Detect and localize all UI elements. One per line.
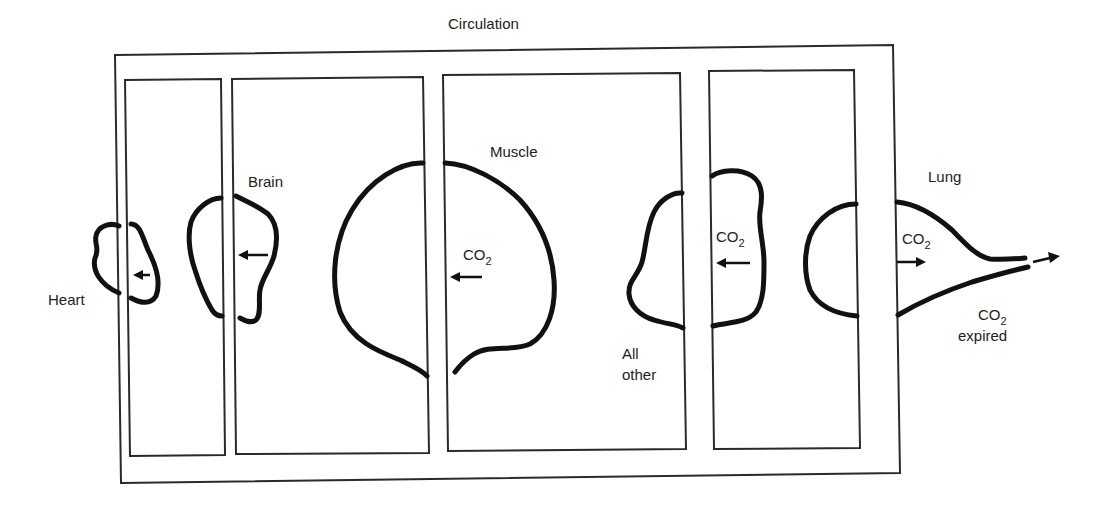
brain-label: Brain: [248, 173, 283, 190]
all-other-label-line2: other: [622, 366, 656, 383]
brain-organ: Brain: [189, 173, 283, 322]
muscle-flux-arrow-icon: [450, 272, 460, 282]
expired-arrow-icon: [1048, 252, 1060, 263]
circulation-diagram: Circulation Heart Brain Muscle CO2 CO2: [0, 0, 1101, 507]
heart-flux-arrow-icon: [133, 270, 143, 280]
expired-arrow-line: [1033, 258, 1050, 262]
heart-blood-compartment: [125, 79, 225, 456]
lung-flux-arrow-icon: [916, 257, 926, 267]
lung-organ: Lung CO2 CO2 expired: [806, 168, 1061, 344]
lung-co2-label: CO2: [902, 230, 931, 251]
heart-label: Heart: [48, 291, 86, 308]
all-other-left-lobe: [629, 193, 683, 328]
brain-right-lobe: [236, 196, 276, 322]
brain-blood-compartment: [232, 77, 429, 454]
brain-flux-arrow-icon: [238, 250, 248, 260]
lung-left-lobe: [806, 204, 858, 316]
muscle-co2-label: CO2: [463, 246, 492, 267]
heart-right-lobe: [131, 224, 158, 302]
muscle-label: Muscle: [490, 143, 538, 160]
all-other-label-line1: All: [622, 345, 639, 362]
all-other-co2-label: CO2: [716, 228, 745, 249]
heart-left-lobe: [94, 224, 119, 293]
heart-organ: Heart: [48, 224, 158, 308]
all-other-organ: CO2 All other: [622, 171, 764, 383]
co2-expired-label-line1: CO2: [978, 306, 1007, 327]
muscle-right-lobe: [445, 163, 554, 372]
all-other-flux-arrow-icon: [716, 258, 726, 268]
muscle-left-lobe: [335, 163, 427, 376]
brain-left-lobe: [189, 198, 222, 316]
circulation-title: Circulation: [448, 15, 519, 32]
co2-expired-label-line2: expired: [958, 327, 1007, 344]
lung-label: Lung: [928, 168, 961, 185]
other-blood-compartment: [709, 70, 860, 449]
lung-lower-airway: [898, 267, 1028, 315]
